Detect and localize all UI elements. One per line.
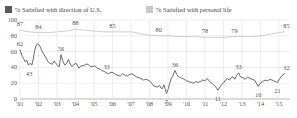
data-point-label: 33 bbox=[103, 62, 109, 69]
data-point-label: 79 bbox=[231, 26, 237, 33]
data-point-label: 7 bbox=[165, 98, 168, 105]
data-point-label: 36 bbox=[172, 60, 178, 67]
data-point-label: 21 bbox=[274, 87, 280, 94]
data-point-label: 62 bbox=[17, 40, 23, 47]
data-point-label: 85 bbox=[109, 21, 115, 28]
data-point-label: 87 bbox=[17, 20, 23, 27]
data-point-label: 88 bbox=[72, 19, 78, 26]
data-point-label: 80 bbox=[156, 25, 162, 32]
data-point-label: 32 bbox=[283, 63, 289, 70]
data-point-label: 56 bbox=[58, 44, 64, 51]
data-point-label: 84 bbox=[35, 22, 41, 29]
data-point-label: 43 bbox=[26, 70, 32, 77]
data-point-labels: 6243563373611331621328784888580787985 bbox=[0, 0, 297, 118]
data-point-label: 33 bbox=[235, 62, 241, 69]
data-point-label: 85 bbox=[283, 21, 289, 28]
data-point-label: 16 bbox=[255, 91, 261, 98]
data-point-label: 11 bbox=[215, 95, 221, 102]
data-point-label: 78 bbox=[202, 27, 208, 34]
chart-root: % Satisfied with direction of U.S. % Sat… bbox=[0, 0, 297, 118]
